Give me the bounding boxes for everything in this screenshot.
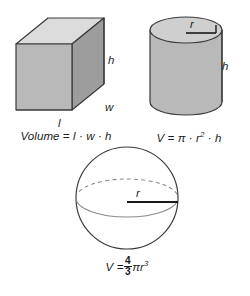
prism-formula-height-term: h xyxy=(105,130,112,142)
prism-formula-operator-2: · xyxy=(98,130,102,142)
cylinder-drawing xyxy=(128,8,250,128)
prism-formula-lhs: Volume xyxy=(20,130,59,142)
sphere-volume-formula: V =43πr3 xyxy=(52,256,202,278)
sphere-formula-pi: π xyxy=(132,261,140,273)
cylinder-top-ellipse xyxy=(150,17,222,43)
prism-width-label: w xyxy=(105,101,113,113)
sphere-drawing xyxy=(52,144,202,256)
sphere-formula-equals: = xyxy=(117,261,124,273)
cylinder-height-label: h xyxy=(222,60,228,72)
sphere-radius-label: r xyxy=(136,187,140,199)
figure-rectangular-prism: h w l Volume = l · w · h xyxy=(4,8,128,148)
prism-front-face xyxy=(16,44,72,110)
prism-formula-operator-1: · xyxy=(79,130,83,142)
sphere-formula-radius-exponent: 3 xyxy=(144,259,148,268)
prism-formula-equals: = xyxy=(63,130,70,142)
sphere-formula-fraction-denominator: 3 xyxy=(124,266,132,277)
cylinder-formula-operator-2: · xyxy=(208,132,212,144)
cylinder-formula-pi: π xyxy=(178,132,186,144)
cylinder-formula-height: h xyxy=(215,132,222,144)
prism-length-label: l xyxy=(58,117,61,129)
sphere-outline xyxy=(76,147,178,249)
figure-cylinder: h r V = π · r2 · h xyxy=(128,8,250,148)
cylinder-formula-equals: = xyxy=(168,132,175,144)
prism-formula-width-term: w xyxy=(86,130,94,142)
prism-formula-length-term: l xyxy=(73,130,76,142)
volume-formula-sheet: h w l Volume = l · w · h h r xyxy=(0,0,250,296)
cylinder-volume-formula: V = π · r2 · h xyxy=(128,130,250,144)
sphere-formula-fraction: 43 xyxy=(124,256,132,278)
sphere-formula-fraction-numerator: 4 xyxy=(124,256,132,266)
prism-height-label: h xyxy=(108,54,114,66)
sphere-formula-lhs: V xyxy=(106,261,114,273)
cylinder-radius-label: r xyxy=(190,18,194,30)
cylinder-formula-operator-1: · xyxy=(189,132,193,144)
figure-sphere: r V =43πr3 xyxy=(52,144,202,294)
prism-volume-formula: Volume = l · w · h xyxy=(4,130,128,142)
cylinder-formula-lhs: V xyxy=(157,132,165,144)
cylinder-formula-radius-exponent: 2 xyxy=(200,130,204,139)
